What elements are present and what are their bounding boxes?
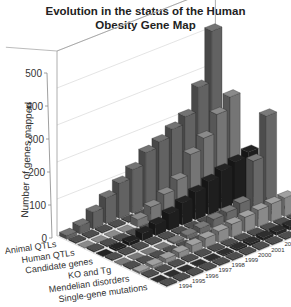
year-label: 1996: [205, 273, 219, 279]
gridline: [57, 0, 215, 51]
year-label: 1999: [245, 257, 259, 263]
z-axis: [47, 73, 52, 238]
year-label: 2002: [284, 241, 291, 247]
y-tick-label: 100: [29, 200, 46, 211]
year-label: 1994: [179, 283, 193, 289]
year-label: 1997: [218, 267, 232, 273]
year-label: 1995: [192, 278, 206, 284]
3d-bar-chart: 0100200300400500Number of genes mappedAn…: [0, 0, 291, 307]
y-tick-label: 500: [25, 68, 42, 79]
year-label: 2001: [271, 247, 285, 253]
year-label: 2000: [258, 252, 272, 258]
gridline: [57, 26, 215, 88]
year-label: 1998: [232, 262, 246, 268]
